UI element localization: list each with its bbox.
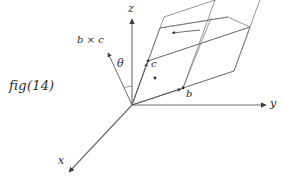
x-axis-label: x (58, 155, 64, 166)
lattice-col-1 (183, 18, 211, 88)
x-axis-line (69, 105, 132, 172)
figure-caption: fig(14) (9, 79, 54, 92)
lattice-row-1 (148, 27, 250, 61)
c-vector-label: c (151, 59, 157, 69)
b-cross-c-label: b × c (77, 35, 104, 45)
b-vector-label: b (186, 89, 192, 99)
lattice-diag-top (160, 17, 250, 28)
theta-angle-label: θ (117, 58, 124, 69)
lattice-line-c-2 (234, 0, 266, 71)
figure-root: fig(14) z y x b × c θ c b (0, 0, 283, 182)
lattice-line-b-2 (164, 0, 266, 17)
lattice-mesh (132, 0, 266, 105)
lattice-col-2 (234, 27, 250, 71)
theta-arc (124, 86, 132, 88)
z-axis-label: z (128, 3, 134, 14)
b-vector (132, 87, 184, 105)
y-axis-label: y (270, 98, 276, 109)
c-vector-mid (154, 77, 157, 80)
b-vector-tip (182, 87, 185, 90)
lattice-top-edge-arrow (172, 30, 200, 33)
c-vector-tip (147, 60, 150, 63)
